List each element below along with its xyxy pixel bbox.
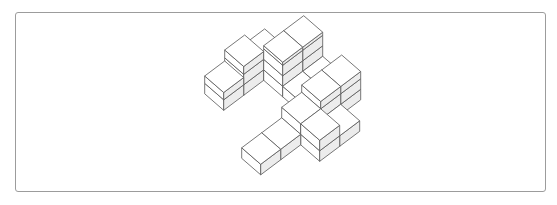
isometric-cube-diagram	[0, 0, 557, 205]
